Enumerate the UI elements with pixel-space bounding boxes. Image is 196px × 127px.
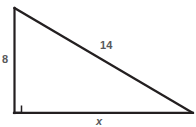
horizontal-leg-label: x	[96, 116, 102, 127]
hypotenuse-line	[15, 8, 193, 113]
vertical-leg-label: 8	[2, 54, 8, 65]
right-triangle-figure: 8 14 x	[0, 0, 196, 127]
hypotenuse-label: 14	[100, 40, 113, 51]
triangle-graphic	[0, 0, 196, 127]
